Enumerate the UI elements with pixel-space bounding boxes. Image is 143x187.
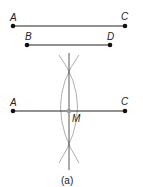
label-b: B xyxy=(25,31,32,42)
point-a-bottom xyxy=(11,109,16,114)
label-d: D xyxy=(107,31,114,42)
caption: (a) xyxy=(61,175,73,186)
label-m: M xyxy=(72,113,81,124)
point-a-top xyxy=(11,24,16,29)
label-a-bottom: A xyxy=(9,97,17,108)
label-a-top: A xyxy=(9,12,17,23)
label-c-bottom: C xyxy=(121,96,129,107)
perpendicular-bisector-construction: A C B D A C M (a) xyxy=(0,0,143,187)
point-m xyxy=(67,109,72,114)
label-c-top: C xyxy=(121,11,129,22)
segment-ac-top: A C xyxy=(9,11,129,28)
point-b xyxy=(25,43,30,48)
point-d xyxy=(108,43,113,48)
point-c-top xyxy=(123,24,128,29)
point-c-bottom xyxy=(123,109,128,114)
segment-bd: B D xyxy=(25,31,115,47)
